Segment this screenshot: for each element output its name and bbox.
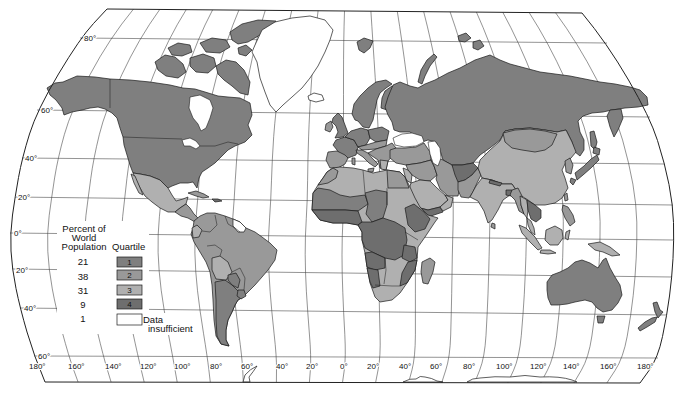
lat-label-60s: 60°	[38, 352, 50, 361]
lon-label: 180°	[637, 362, 654, 371]
region-tanzania	[402, 245, 417, 262]
region-sicily	[368, 168, 374, 172]
legend-quartile-number: 2	[127, 271, 132, 280]
legend-quartile-number: 1	[127, 258, 132, 267]
lon-label: 140°	[105, 362, 122, 371]
legend-quartile-number: 4	[127, 300, 132, 309]
lat-label-equator: 0°	[14, 229, 22, 238]
lon-label: 40°	[399, 362, 411, 371]
lon-label: 0°	[340, 362, 348, 371]
legend-quartile-number: 3	[127, 286, 132, 295]
lat-label-40s: 40°	[24, 304, 36, 313]
region-sardinia	[352, 158, 355, 165]
lon-label: 60°	[430, 362, 442, 371]
lon-label: 20°	[306, 362, 318, 371]
legend-no-data-label: insufficient	[148, 323, 193, 334]
lon-label: 180°	[29, 362, 46, 371]
legend-percent-value: 9	[80, 299, 85, 310]
lon-label: 100°	[174, 362, 191, 371]
lon-label: 60°	[241, 362, 253, 371]
legend-percent-value: 21	[78, 256, 89, 267]
legend-swatch-no-data	[117, 314, 142, 325]
lon-label: 20°	[367, 362, 379, 371]
legend-percent-value: 31	[78, 285, 89, 296]
world-map: 80° 60° 40° 20° 0° 20° 40° 60° 180° 160°…	[0, 0, 681, 395]
lat-label-20n: 20°	[18, 193, 30, 202]
lon-label: 100°	[496, 362, 513, 371]
lat-label-40n: 40°	[25, 154, 37, 163]
legend-quartile-header: Quartile	[112, 241, 145, 252]
lon-label: 140°	[563, 362, 580, 371]
lat-label-80n: 80°	[84, 34, 96, 43]
lat-label-20s: 20°	[16, 266, 28, 275]
lon-label: 80°	[463, 362, 475, 371]
lon-label: 40°	[276, 362, 288, 371]
lat-label-60n: 60°	[41, 106, 53, 115]
lon-label: 160°	[600, 362, 617, 371]
lon-label: 120°	[140, 362, 157, 371]
legend-percent-header: Population	[62, 241, 107, 252]
legend-percent-value: 38	[78, 271, 89, 282]
lon-label: 120°	[530, 362, 547, 371]
lon-label: 160°	[68, 362, 85, 371]
lon-label: 80°	[210, 362, 222, 371]
legend-percent-value: 1	[80, 313, 85, 324]
region-taiwan	[564, 193, 568, 201]
